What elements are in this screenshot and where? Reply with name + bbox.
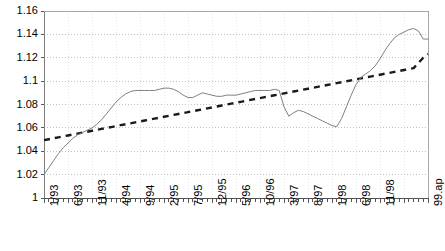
x-axis-tick-label: 11/93 [97,179,108,206]
line-chart: 11.021.041.061.081.11.121.141.16 1/936/9… [0,0,445,251]
x-axis-tick-label: 6/93 [73,185,84,206]
x-axis-tick-label: 3/97 [289,185,300,206]
x-axis-tick-label: 1/98 [337,185,348,206]
x-axis-tick-label: 99.ap [433,178,444,206]
x-axis-tick-label: 11/98 [385,179,396,206]
x-axis-tick-label: 9/94 [145,185,156,206]
y-axis-tick-label: 1.1 [0,75,38,86]
x-axis-tick-label: 6/98 [361,185,372,206]
x-axis-tick-label: 10/96 [265,178,276,206]
x-axis-tick-label: 2/95 [169,185,180,206]
y-axis-tick-label: 1.06 [0,122,38,133]
x-axis-tick-label: 1/93 [49,185,60,206]
x-axis-tick-label: 7/95 [193,185,204,206]
chart-canvas [0,0,445,251]
y-axis-tick-label: 1.12 [0,52,38,63]
x-axis-tick-label: 4/94 [121,185,132,206]
series-trend-line [44,54,428,140]
y-axis-tick-label: 1.02 [0,169,38,180]
grid-lines [44,11,428,198]
x-axis-tick-label: 8/97 [313,185,324,206]
y-axis-tick-label: 1.04 [0,145,38,156]
x-axis-tick-label: 12/95 [217,178,228,206]
y-axis-tick-label: 1.08 [0,99,38,110]
y-axis-tick-label: 1.16 [0,5,38,16]
axis-ticks [41,11,428,203]
y-axis-tick-label: 1.14 [0,28,38,39]
x-axis-tick-label: 5/96 [241,185,252,206]
y-axis-tick-label: 1 [0,192,38,203]
